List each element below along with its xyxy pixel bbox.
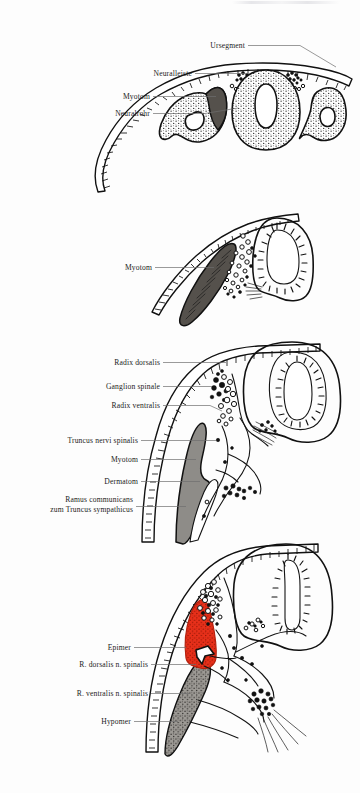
hypomer-p4: [165, 660, 210, 757]
panel-stage-b: Myotom: [0, 190, 360, 340]
neural-tube-p4: [233, 544, 332, 650]
neural-tube-p1: [232, 70, 300, 150]
truncus-sympathicus-cells-p3: [222, 484, 257, 500]
label-ganglion-spinale: Ganglion spinale: [106, 382, 161, 391]
label-myotom-p2: Myotom: [125, 263, 152, 272]
label-radix-dorsalis: Radix dorsalis: [114, 358, 160, 367]
anatomical-figure-sheet: Ursegment Neuralleiste Myotom Neuralrohr: [0, 0, 360, 793]
panel-stage-d: Epimer R. dorsalis n. spinalis R. ventra…: [0, 540, 360, 793]
panel-stage-c: Radix dorsalis Ganglion spinale Radix ve…: [0, 330, 360, 545]
panel-2-labels: Myotom: [125, 263, 214, 272]
hypomer-shape: [165, 660, 210, 757]
label-neuralrohr: Neuralrohr: [115, 109, 150, 118]
label-truncus-nervi-spinalis: Truncus nervi spinalis: [67, 436, 138, 445]
sympathetic-ganglion-p4: [248, 689, 306, 752]
label-ursegment: Ursegment: [210, 41, 245, 50]
label-hypomer: Hypomer: [101, 717, 131, 726]
label-r-dorsalis-n-spinalis: R. dorsalis n. spinalis: [79, 660, 148, 669]
label-neuralleiste: Neuralleiste: [154, 69, 193, 78]
somite-left-p1: [159, 88, 226, 142]
label-ramus-communicans-line2: zum Truncus sympathicus: [50, 505, 133, 514]
label-dermatom: Dermatom: [104, 477, 138, 486]
panel-stage-a: Ursegment Neuralleiste Myotom Neuralrohr: [0, 0, 360, 200]
label-radix-ventralis: Radix ventralis: [112, 401, 160, 410]
neural-tube-p3: [243, 342, 340, 445]
label-ramus-communicans-line1: Ramus communicans: [65, 495, 133, 504]
somite-right-p1: [300, 88, 346, 141]
label-epimer: Epimer: [108, 643, 132, 652]
label-r-ventralis-n-spinalis: R. ventralis n. spinalis: [77, 689, 148, 698]
label-myotom-p3: Myotom: [111, 455, 138, 464]
label-myotom-p1: Myotom: [123, 92, 150, 101]
